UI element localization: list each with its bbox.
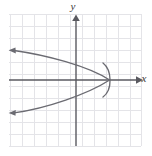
y-axis-label: y xyxy=(70,0,76,12)
coordinate-plane-svg: x y xyxy=(0,0,152,156)
graph-figure: x y xyxy=(0,0,152,156)
x-axis-label: x xyxy=(141,72,147,84)
